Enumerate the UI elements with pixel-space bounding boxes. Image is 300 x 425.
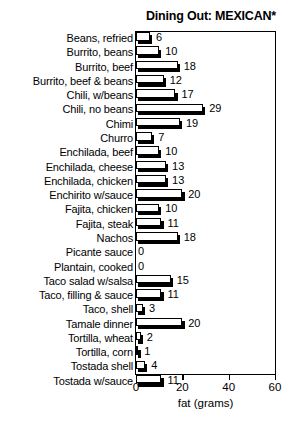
bar-category-label: Tostada shell [71, 359, 133, 373]
bar-row: Taco, filling & sauce11 [0, 288, 300, 302]
bar [136, 218, 164, 230]
x-axis-tick-label: 0 [121, 381, 151, 394]
bar-face [136, 346, 138, 354]
bar-rows: Beans, refried6Burrito, beans10Burrito, … [0, 31, 300, 374]
bar-category-label: Beans, refried [67, 31, 133, 45]
bar [136, 204, 162, 216]
bar-category-label: Chili, no beans [62, 102, 133, 116]
bar-value-label: 3 [149, 302, 155, 314]
bar [136, 132, 155, 144]
bar-category-label: Nachos [97, 231, 133, 245]
bar-row: Picante sauce0 [0, 245, 300, 259]
bar-row: Plantain, cooked0 [0, 260, 300, 274]
x-axis-tick [136, 375, 137, 380]
bar-face [136, 161, 166, 169]
bar-value-label: 13 [172, 174, 184, 186]
bar-row: Fajita, steak11 [0, 217, 300, 231]
bar-face [136, 189, 182, 197]
bar-face [136, 332, 141, 340]
bar [136, 89, 178, 101]
bar-face [136, 32, 150, 40]
bar-face [136, 289, 161, 297]
bar-value-label: 1 [144, 345, 150, 357]
bar-face [136, 175, 166, 183]
bar [136, 332, 144, 344]
bar-category-label: Tortilla, wheat [68, 331, 133, 345]
bar-value-label: 12 [170, 74, 182, 86]
bar-category-label: Chimi [106, 117, 133, 131]
bar-category-label: Churro [100, 131, 133, 145]
x-axis-tick-label: 40 [214, 381, 244, 394]
bar-value-label: 13 [172, 160, 184, 172]
bar-value-label: 15 [177, 274, 189, 286]
bar [136, 75, 167, 87]
bar [136, 118, 183, 130]
bar-face [136, 118, 180, 126]
bar-face [136, 89, 175, 97]
bar [136, 61, 181, 73]
x-axis-tick-label: 20 [167, 381, 197, 394]
bar [136, 146, 162, 158]
bar [136, 346, 141, 358]
bar [136, 175, 169, 187]
bar [136, 161, 169, 173]
x-axis-tick [275, 375, 276, 380]
bar-value-label: 11 [167, 288, 178, 300]
bar-category-label: Tamale dinner [66, 317, 133, 331]
bar-category-label: Chili, w/beans [67, 88, 133, 102]
bar-value-label: 17 [181, 88, 193, 100]
x-axis: fat (grams) 0204060 [0, 375, 300, 425]
bar-face [136, 46, 159, 54]
bar-row: Enchilada, cheese13 [0, 160, 300, 174]
bar-face [136, 318, 182, 326]
x-axis-title: fat (grams) [135, 397, 276, 409]
bar-face [136, 61, 178, 69]
bar-row: Chili, w/beans17 [0, 88, 300, 102]
bar [136, 318, 185, 330]
bar-category-label: Fajita, steak [76, 217, 133, 231]
bar-row: Enchirito w/sauce20 [0, 188, 300, 202]
bar-category-label: Burrito, beans [67, 45, 133, 59]
bar-row: Taco salad w/salsa15 [0, 274, 300, 288]
bar-value-label: 20 [188, 188, 200, 200]
bar-row: Tortilla, wheat2 [0, 331, 300, 345]
bar-row: Chili, no beans29 [0, 102, 300, 116]
bar-category-label: Fajita, chicken [65, 202, 133, 216]
x-axis-tick-label: 60 [260, 381, 290, 394]
bar-row: Tostada shell4 [0, 359, 300, 373]
bar [136, 361, 148, 373]
bar-row: Taco, shell3 [0, 302, 300, 316]
bar-category-label: Enchilada, chicken [44, 174, 133, 188]
bar-face [136, 75, 164, 83]
chart-title: Dining Out: MEXICAN* [136, 9, 286, 23]
bar-value-label: 29 [209, 102, 221, 114]
bar-face [136, 218, 161, 226]
bar-face [136, 232, 178, 240]
bar-row: Burrito, beef & beans12 [0, 74, 300, 88]
bar-value-label: 10 [165, 145, 177, 157]
bar-value-label: 18 [184, 60, 196, 72]
bar-value-label: 18 [184, 231, 196, 243]
bar [136, 232, 181, 244]
bar-row: Burrito, beans10 [0, 45, 300, 59]
bar-category-label: Burrito, beef [75, 60, 133, 74]
bar-category-label: Taco, filling & sauce [39, 288, 133, 302]
bar-face [136, 304, 143, 312]
bar-value-label: 11 [167, 217, 178, 229]
bar-value-label: 2 [147, 331, 153, 343]
bar-face [136, 361, 145, 369]
x-axis-tick [229, 375, 230, 380]
bar [136, 304, 146, 316]
bar [136, 32, 153, 44]
bar [136, 189, 185, 201]
bar-row: Chimi19 [0, 117, 300, 131]
bar-value-label: 10 [165, 45, 177, 57]
bar-row: Fajita, chicken10 [0, 202, 300, 216]
bar-row: Beans, refried6 [0, 31, 300, 45]
bar-value-label: 10 [165, 202, 177, 214]
bar-value-label: 7 [158, 131, 164, 143]
bar-value-label: 6 [156, 31, 162, 43]
bar [136, 46, 162, 58]
bar-value-label: 4 [151, 359, 157, 371]
bar-category-label: Enchirito w/sauce [49, 188, 133, 202]
